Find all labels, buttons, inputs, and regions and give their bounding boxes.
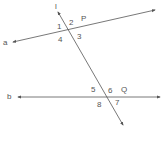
label-point-q: Q: [121, 85, 127, 94]
angle-5: 5: [91, 85, 96, 94]
angle-7: 7: [115, 98, 120, 107]
angle-2: 2: [69, 18, 74, 27]
label-line-l: l: [55, 2, 57, 11]
transversal-l: [58, 12, 123, 125]
angle-1: 1: [57, 22, 62, 31]
angle-3: 3: [77, 32, 82, 41]
label-point-p: P: [81, 14, 86, 23]
angle-8: 8: [97, 100, 102, 109]
label-line-b: b: [7, 92, 12, 101]
angle-6: 6: [108, 86, 113, 95]
angle-4: 4: [58, 35, 63, 44]
label-line-a: a: [3, 38, 8, 47]
parallel-lines-diagram: a b l P Q 1 2 3 4 5 6 7 8: [0, 0, 162, 148]
